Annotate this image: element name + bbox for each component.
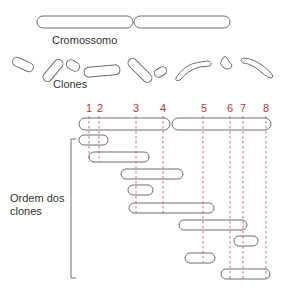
clone-order-label-line1: Ordem dos [10, 192, 64, 205]
marker-label-6: 6 [227, 102, 233, 114]
chromosome-label: Cromossomo [52, 34, 117, 46]
chromosome-left-arm [37, 16, 133, 28]
chromosome-reference [79, 118, 271, 130]
marker-label-3: 3 [133, 102, 139, 114]
ordered-clone-5 [129, 203, 214, 213]
clone-shape [126, 57, 154, 85]
clone-order-label-line2: clones [10, 205, 64, 218]
clone-order-bracket [71, 139, 76, 278]
chromosome-ref-right-arm [172, 118, 271, 130]
ordered-clone-6 [179, 220, 247, 230]
ordered-clone-1 [79, 135, 108, 145]
ordered-clone-3 [121, 169, 183, 179]
ordered-clone-2 [89, 152, 149, 162]
scattered-clones [11, 56, 273, 85]
marker-label-8: 8 [263, 102, 269, 114]
marker-label-4: 4 [160, 102, 166, 114]
clone-shape [84, 64, 121, 77]
clone-shape [221, 57, 232, 70]
bracket-line [71, 139, 76, 278]
clone-shape [65, 58, 82, 73]
marker-label-5: 5 [201, 102, 207, 114]
chromosome-ref-left-arm [79, 118, 170, 130]
ordered-clone-8 [185, 253, 215, 263]
clone-shape [153, 65, 168, 78]
marker-lines [89, 116, 266, 279]
ordered-clone-4 [128, 185, 153, 195]
clone-shape [241, 58, 273, 78]
marker-label-1: 1 [86, 102, 92, 114]
ordered-clone-7 [234, 236, 258, 246]
marker-label-2: 2 [97, 102, 103, 114]
ordered-clones [79, 135, 270, 279]
clone-order-label: Ordem dos clones [10, 192, 64, 218]
chromosome-right-arm [134, 16, 230, 28]
clone-shape [176, 61, 211, 81]
chromosome-top [37, 16, 230, 28]
ordered-clone-9 [221, 269, 270, 279]
clone-shape [11, 56, 35, 73]
clone-ordering-diagram [0, 0, 286, 292]
clones-label: Clones [53, 78, 87, 90]
marker-label-7: 7 [240, 102, 246, 114]
